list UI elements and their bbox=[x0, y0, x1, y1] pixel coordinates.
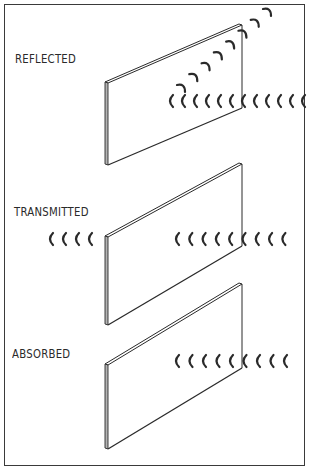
label-absorbed: ABSORBED bbox=[12, 347, 70, 361]
wave-interaction-diagram bbox=[0, 0, 311, 474]
label-transmitted: TRANSMITTED bbox=[14, 205, 89, 219]
transmitted-outgoing-waves bbox=[50, 233, 92, 245]
panels bbox=[105, 24, 242, 449]
label-reflected: REFLECTED bbox=[15, 52, 76, 66]
